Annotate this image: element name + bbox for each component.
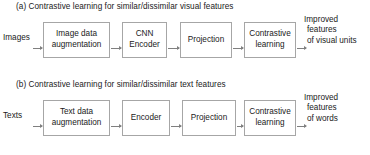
node-label-line2: augmentation (52, 118, 102, 129)
arrow-input-to-augmentation (33, 48, 42, 49)
panel-b-input-label: Texts (3, 111, 22, 121)
node-label-line2: learning (249, 118, 290, 129)
node-label-line1: Contrastive (249, 107, 290, 118)
output-label-line3: of words (304, 114, 338, 124)
arrow-projection-to-contrastive (237, 126, 243, 127)
output-label-line2: features (304, 25, 357, 35)
arrow-augmentation-to-encoder (111, 126, 121, 127)
panel-visual-contrastive-learning: (a) Contrastive learning for similar/dis… (0, 0, 370, 78)
panel-a-output-label: Improved features of visual units (304, 15, 357, 46)
node-label-line1: Text data (52, 107, 102, 118)
node-projection[interactable]: Projection (180, 22, 232, 58)
node-contrastive-learning[interactable]: Contrastive learning (244, 22, 296, 58)
node-label-line1: Image data (52, 29, 102, 40)
node-label-line1: Contrastive (249, 29, 290, 40)
arrow-projection-to-contrastive (233, 48, 243, 49)
node-cnn-encoder[interactable]: CNN Encoder (122, 22, 167, 58)
node-projection[interactable]: Projection (182, 100, 236, 136)
node-encoder[interactable]: Encoder (122, 100, 170, 136)
node-label-line1: CNN (129, 29, 160, 40)
panel-a-input-label: Images (3, 33, 30, 43)
output-label-line3: of visual units (304, 36, 357, 46)
node-label-line2: augmentation (52, 40, 102, 51)
arrow-contrastive-to-output (297, 126, 306, 127)
arrow-augmentation-to-encoder (111, 48, 121, 49)
panel-text-contrastive-learning: (b) Contrastive learning for similar/dis… (0, 78, 370, 155)
panel-a-flow: Images Image data augmentation CNN Encod… (0, 20, 370, 66)
node-label-line2: learning (249, 40, 290, 51)
output-label-line1: Improved (304, 93, 338, 103)
arrow-input-to-augmentation (33, 126, 42, 127)
arrow-encoder-to-projection (171, 126, 181, 127)
panel-b-output-label: Improved features of words (304, 93, 338, 124)
node-contrastive-learning[interactable]: Contrastive learning (244, 100, 296, 136)
node-image-data-augmentation[interactable]: Image data augmentation (43, 22, 110, 58)
arrow-contrastive-to-output (297, 48, 306, 49)
output-label-line1: Improved (304, 15, 357, 25)
arrow-encoder-to-projection (168, 48, 179, 49)
node-label-line1: Projection (191, 113, 227, 124)
node-label-line1: Encoder (131, 113, 162, 124)
panel-b-caption: (b) Contrastive learning for similar/dis… (16, 80, 226, 89)
output-label-line2: features (304, 103, 338, 113)
node-label-line2: Encoder (129, 40, 160, 51)
node-label-line1: Projection (188, 35, 224, 46)
panel-b-flow: Texts Text data augmentation Encoder Pro… (0, 98, 370, 144)
panel-a-caption: (a) Contrastive learning for similar/dis… (16, 2, 233, 11)
node-text-data-augmentation[interactable]: Text data augmentation (43, 100, 110, 136)
